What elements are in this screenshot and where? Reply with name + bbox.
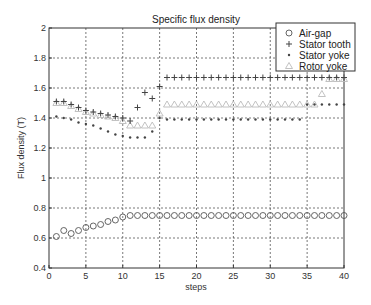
- data-point: [276, 118, 278, 120]
- chart-title: Specific flux density: [152, 14, 240, 25]
- data-point: [319, 75, 325, 81]
- data-point: [142, 90, 148, 96]
- data-point: [232, 118, 234, 120]
- data-point: [203, 118, 205, 120]
- data-point: [188, 118, 190, 120]
- data-point: [151, 130, 153, 132]
- data-point: [260, 213, 266, 219]
- series-stator-yoke: [55, 103, 345, 138]
- data-point: [186, 213, 192, 219]
- data-point: [136, 136, 138, 138]
- data-point: [326, 213, 332, 219]
- data-point: [92, 124, 94, 126]
- data-point: [77, 121, 79, 123]
- data-point: [179, 75, 185, 81]
- data-point: [186, 101, 193, 107]
- series-layer: [53, 75, 348, 240]
- data-point: [306, 103, 308, 105]
- data-point: [247, 118, 249, 120]
- data-point: [223, 75, 229, 81]
- data-point: [181, 118, 183, 120]
- data-point: [238, 75, 244, 81]
- data-point: [195, 118, 197, 120]
- data-point: [201, 75, 207, 81]
- data-point: [297, 75, 303, 81]
- x-tick-label: 15: [155, 271, 165, 281]
- data-point: [166, 118, 168, 120]
- legend-label: Air-gap: [299, 28, 332, 39]
- data-point: [171, 213, 177, 219]
- data-point: [122, 135, 124, 137]
- y-tick-label: 1.8: [33, 53, 46, 63]
- data-point: [127, 213, 133, 219]
- y-tick-label: 0.4: [33, 263, 46, 273]
- data-point: [318, 91, 325, 97]
- data-point: [208, 101, 215, 107]
- data-point: [149, 122, 156, 128]
- data-point: [157, 84, 163, 90]
- data-point: [215, 101, 222, 107]
- data-point: [321, 103, 323, 105]
- data-point: [144, 136, 146, 138]
- data-point: [61, 228, 67, 234]
- legend-label: Rotor yoke: [299, 61, 348, 72]
- series-rotor-yoke: [53, 76, 348, 129]
- data-point: [127, 118, 133, 124]
- data-point: [328, 103, 330, 105]
- data-point: [179, 213, 185, 219]
- data-point: [164, 75, 170, 81]
- data-point: [173, 118, 175, 120]
- data-point: [210, 118, 212, 120]
- y-tick-label: 1.2: [33, 143, 46, 153]
- data-point: [107, 130, 109, 132]
- flux-density-chart: Specific flux density 0510152025303540 0…: [0, 0, 371, 305]
- legend-label: Stator tooth: [299, 39, 351, 50]
- y-tick-label: 1.6: [33, 83, 46, 93]
- y-tick-label: 2: [41, 23, 46, 33]
- data-point: [304, 75, 310, 81]
- y-axis-label: Flux density (T): [16, 117, 26, 179]
- data-point: [63, 117, 65, 119]
- data-point: [135, 213, 141, 219]
- data-point: [114, 133, 116, 135]
- data-point: [149, 213, 155, 219]
- data-point: [252, 101, 259, 107]
- y-tick-label: 0.8: [33, 203, 46, 213]
- data-point: [53, 234, 59, 240]
- y-tick-label: 0.6: [33, 233, 46, 243]
- data-point: [208, 75, 214, 81]
- data-point: [245, 213, 251, 219]
- data-point: [171, 101, 178, 107]
- data-point: [99, 127, 101, 129]
- data-point: [230, 75, 236, 81]
- data-point: [313, 103, 315, 105]
- x-tick-label: 10: [118, 271, 128, 281]
- data-point: [70, 118, 72, 120]
- data-point: [245, 101, 252, 107]
- data-point: [335, 103, 337, 105]
- data-point: [274, 101, 281, 107]
- legend: Air-gapStator toothStator yokeRotor yoke: [276, 23, 355, 72]
- data-point: [260, 75, 266, 81]
- data-point: [299, 118, 301, 120]
- data-point: [289, 101, 296, 107]
- data-point: [201, 213, 207, 219]
- legend-label: Stator yoke: [299, 50, 350, 61]
- data-point: [98, 222, 104, 228]
- data-point: [134, 122, 141, 128]
- legend-marker-point-icon: [288, 54, 290, 56]
- data-point: [216, 213, 222, 219]
- data-point: [296, 101, 303, 107]
- data-point: [312, 75, 318, 81]
- data-point: [253, 75, 259, 81]
- data-point: [259, 101, 266, 107]
- data-point: [135, 105, 141, 111]
- y-tick-label: 1.4: [33, 113, 46, 123]
- x-tick-label: 35: [302, 271, 312, 281]
- data-point: [194, 75, 200, 81]
- x-axis-label: steps: [185, 282, 207, 292]
- data-point: [68, 231, 74, 237]
- data-point: [269, 118, 271, 120]
- data-point: [164, 213, 170, 219]
- data-point: [319, 213, 325, 219]
